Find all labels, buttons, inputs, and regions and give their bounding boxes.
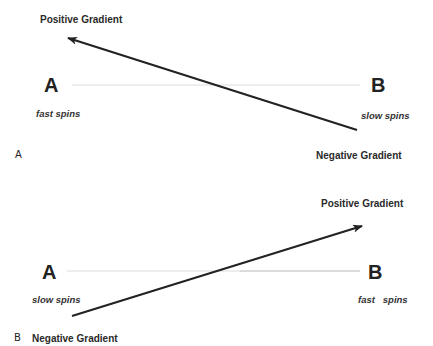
panel-a-slow-spins: slow spins (361, 110, 410, 121)
panel-b-positive-gradient: Positive Gradient (321, 198, 403, 209)
panel-b-fast-spins: fast spins (358, 294, 408, 305)
panel-a-negative-gradient: Negative Gradient (316, 150, 402, 161)
panel-a-node-b: B (371, 75, 385, 95)
panel-a-positive-gradient: Positive Gradient (40, 14, 122, 25)
panel-a-node-a: A (44, 75, 58, 95)
panel-a-label: A (15, 149, 22, 160)
panel-b-slow-spins: slow spins (32, 294, 81, 305)
panel-a-arrow (68, 38, 357, 130)
panel-b-node-a: A (42, 262, 56, 282)
panel-b-node-b: B (368, 262, 382, 282)
panel-a-fast-spins: fast spins (36, 108, 80, 119)
panel-b-label: B (14, 332, 21, 343)
panel-b-negative-gradient: Negative Gradient (32, 333, 118, 344)
